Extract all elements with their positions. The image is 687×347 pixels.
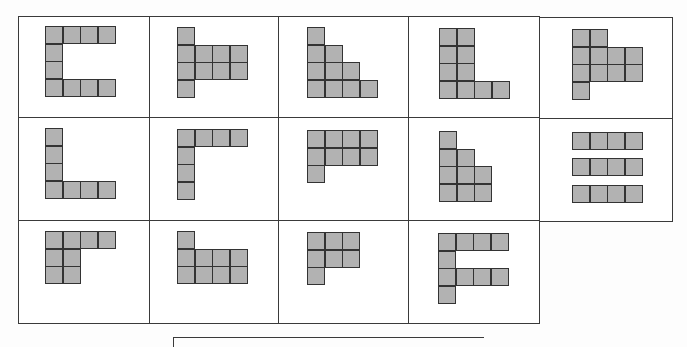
square-cell — [45, 163, 63, 181]
square-cell — [45, 231, 63, 249]
square-cell — [590, 132, 608, 150]
square-cell — [491, 233, 509, 251]
square-cell — [625, 132, 643, 150]
square-cell — [45, 79, 63, 97]
square-cell — [456, 268, 474, 286]
square-cell — [457, 81, 475, 99]
square-cell — [307, 267, 325, 285]
square-cell — [98, 79, 116, 97]
square-cell — [342, 148, 360, 166]
square-cell — [195, 45, 213, 63]
square-cell — [230, 266, 248, 284]
square-cell — [607, 64, 625, 82]
square-cell — [438, 233, 456, 251]
square-cell — [474, 81, 492, 99]
square-cell — [230, 62, 248, 80]
square-cell — [307, 80, 325, 98]
square-cell — [607, 185, 625, 203]
square-cell — [307, 45, 325, 63]
square-cell — [439, 81, 457, 99]
square-cell — [177, 147, 195, 165]
square-cell — [80, 181, 98, 199]
square-cell — [572, 132, 590, 150]
square-cell — [63, 26, 81, 44]
square-cell — [212, 129, 230, 147]
square-cell — [80, 231, 98, 249]
square-cell — [307, 165, 325, 183]
square-cell — [45, 146, 63, 164]
square-cell — [572, 185, 590, 203]
square-cell — [98, 26, 116, 44]
square-cell — [342, 130, 360, 148]
square-cell — [625, 185, 643, 203]
square-cell — [45, 61, 63, 79]
square-cell — [177, 62, 195, 80]
square-cell — [98, 231, 116, 249]
square-cell — [590, 158, 608, 176]
square-cell — [325, 80, 343, 98]
square-cell — [325, 148, 343, 166]
square-cell — [325, 250, 343, 268]
square-cell — [474, 184, 492, 202]
square-cell — [438, 268, 456, 286]
square-cell — [325, 62, 343, 80]
square-cell — [457, 184, 475, 202]
square-cell — [438, 286, 456, 304]
square-cell — [45, 26, 63, 44]
square-cell — [474, 166, 492, 184]
square-cell — [457, 46, 475, 64]
square-cell — [195, 62, 213, 80]
square-cell — [63, 266, 81, 284]
square-cell — [177, 231, 195, 249]
square-cell — [212, 266, 230, 284]
square-cell — [439, 131, 457, 149]
square-cell — [177, 182, 195, 200]
square-cell — [307, 148, 325, 166]
square-cell — [177, 164, 195, 182]
square-cell — [45, 44, 63, 62]
square-cell — [230, 45, 248, 63]
square-cell — [195, 249, 213, 267]
square-cell — [212, 45, 230, 63]
square-cell — [325, 45, 343, 63]
square-cell — [177, 129, 195, 147]
square-cell — [439, 46, 457, 64]
square-cell — [45, 128, 63, 146]
square-cell — [177, 80, 195, 98]
square-cell — [572, 158, 590, 176]
square-cell — [625, 64, 643, 82]
square-cell — [80, 79, 98, 97]
square-cell — [63, 231, 81, 249]
square-cell — [439, 149, 457, 167]
square-cell — [457, 166, 475, 184]
square-cell — [360, 130, 378, 148]
square-cell — [307, 250, 325, 268]
square-cell — [307, 62, 325, 80]
square-cell — [342, 250, 360, 268]
square-cell — [625, 158, 643, 176]
square-cell — [307, 130, 325, 148]
square-cell — [457, 63, 475, 81]
square-cell — [45, 181, 63, 199]
cut-off-answer-panel — [173, 337, 484, 347]
square-cell — [590, 64, 608, 82]
square-cell — [572, 29, 590, 47]
square-cell — [307, 27, 325, 45]
square-cell — [80, 26, 98, 44]
square-cell — [177, 249, 195, 267]
square-cell — [98, 181, 116, 199]
square-cell — [177, 45, 195, 63]
square-cell — [325, 130, 343, 148]
square-cell — [342, 62, 360, 80]
square-cell — [572, 82, 590, 100]
square-cell — [230, 249, 248, 267]
square-cell — [572, 64, 590, 82]
square-cell — [212, 62, 230, 80]
square-cell — [607, 158, 625, 176]
square-cell — [177, 27, 195, 45]
square-cell — [45, 249, 63, 267]
square-cell — [456, 233, 474, 251]
square-cell — [307, 232, 325, 250]
square-cell — [63, 249, 81, 267]
square-cell — [63, 181, 81, 199]
